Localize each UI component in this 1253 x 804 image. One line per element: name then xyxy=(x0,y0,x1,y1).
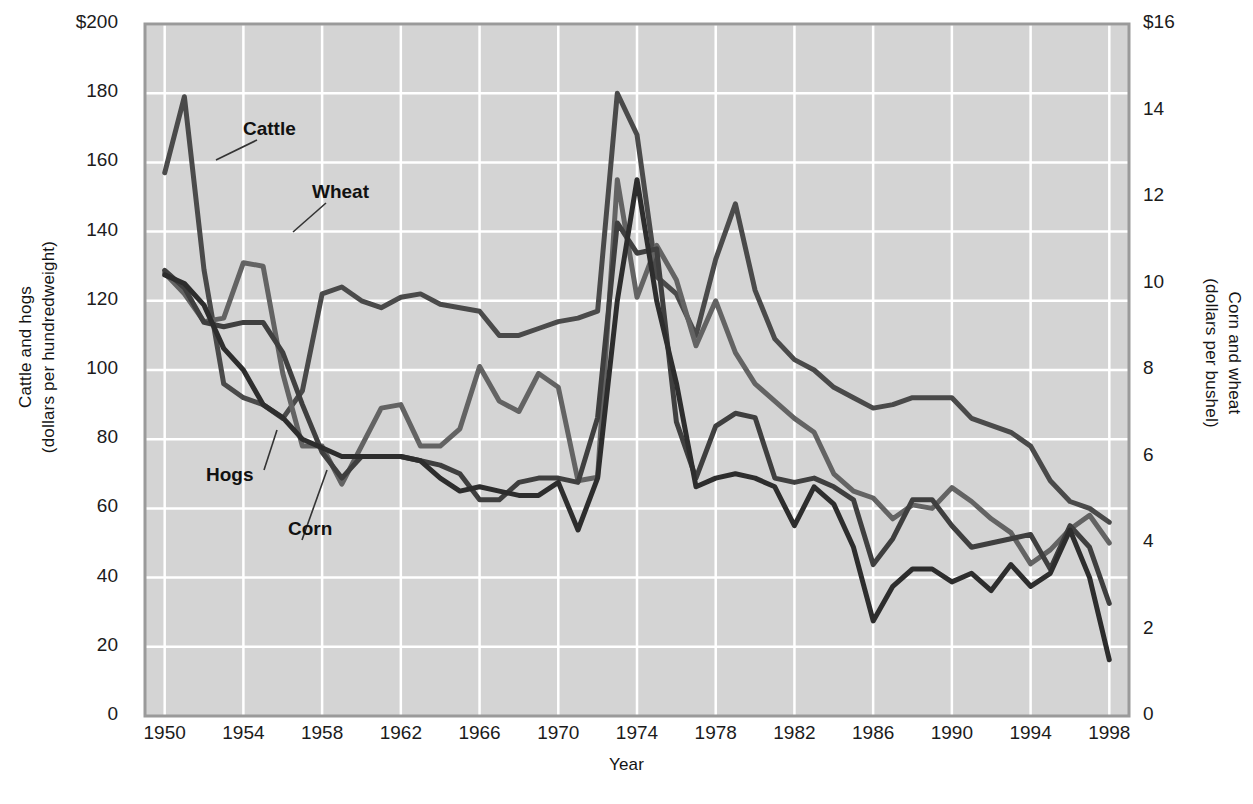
x-tick: 1994 xyxy=(986,722,1076,744)
chart-plot-area xyxy=(0,0,1253,804)
y-tick-right: 14 xyxy=(1143,98,1223,120)
y-tick-right: $16 xyxy=(1143,11,1223,33)
series-label-corn: Corn xyxy=(288,518,332,540)
x-tick: 1966 xyxy=(435,722,525,744)
y-tick-left: 60 xyxy=(38,495,118,517)
y-tick-left: 40 xyxy=(38,565,118,587)
y-tick-right: 6 xyxy=(1143,444,1223,466)
y-tick-left: 100 xyxy=(38,357,118,379)
chart-figure: Cattle and hogs (dollars per hundredweig… xyxy=(0,0,1253,804)
y-tick-left: 20 xyxy=(38,634,118,656)
right-axis-title: Corn and wheat (dollars per bushel) xyxy=(1200,228,1246,478)
x-tick: 1950 xyxy=(120,722,210,744)
x-tick: 1954 xyxy=(198,722,288,744)
x-tick: 1958 xyxy=(277,722,367,744)
y-tick-left: 0 xyxy=(38,703,118,725)
x-tick: 1978 xyxy=(671,722,761,744)
x-tick: 1974 xyxy=(592,722,682,744)
x-tick: 1982 xyxy=(749,722,839,744)
y-tick-left: 120 xyxy=(38,288,118,310)
y-tick-left: 140 xyxy=(38,219,118,241)
x-tick: 1986 xyxy=(828,722,918,744)
series-label-wheat: Wheat xyxy=(312,181,369,203)
y-tick-right: 10 xyxy=(1143,271,1223,293)
x-tick: 1998 xyxy=(1064,722,1154,744)
series-label-cattle: Cattle xyxy=(243,118,296,140)
x-tick: 1962 xyxy=(356,722,446,744)
series-label-hogs: Hogs xyxy=(206,464,254,486)
x-axis-title: Year xyxy=(0,755,1253,775)
x-tick: 1990 xyxy=(907,722,997,744)
y-tick-right: 12 xyxy=(1143,184,1223,206)
y-tick-left: 160 xyxy=(38,149,118,171)
y-tick-right: 2 xyxy=(1143,617,1223,639)
y-tick-left: 180 xyxy=(38,80,118,102)
y-tick-left: $200 xyxy=(38,11,118,33)
y-tick-left: 80 xyxy=(38,426,118,448)
y-tick-right: 4 xyxy=(1143,530,1223,552)
y-tick-right: 8 xyxy=(1143,357,1223,379)
x-tick: 1970 xyxy=(513,722,603,744)
y-tick-right: 0 xyxy=(1143,703,1223,725)
